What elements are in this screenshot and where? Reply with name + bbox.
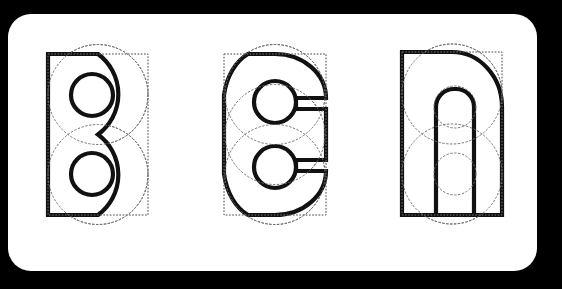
glyph-b-counter-lower [71, 153, 113, 195]
glyph-c-outline [224, 54, 326, 215]
glyph-b-group [48, 45, 148, 225]
glyph-n-group [402, 44, 502, 224]
glyph-c-counter-lower [254, 146, 296, 188]
figure-root [0, 0, 562, 289]
white-card [8, 14, 537, 271]
glyph-n-counter [436, 89, 474, 215]
glyph-c-group [224, 45, 326, 225]
glyph-c-counter-upper [254, 81, 296, 123]
glyph-canvas [8, 14, 537, 271]
glyph-b-counter-upper [71, 74, 113, 116]
